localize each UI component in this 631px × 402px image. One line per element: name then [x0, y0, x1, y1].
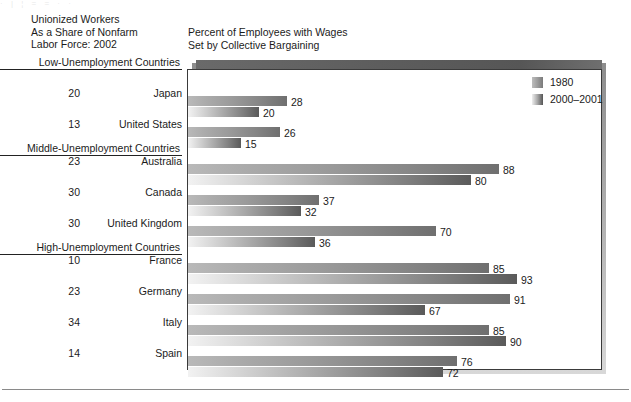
row-label-japan: 20 Japan	[0, 86, 184, 100]
chart-title-line-2: Set by Collective Bargaining	[188, 39, 348, 52]
union-share-united-kingdom: 30	[68, 216, 80, 230]
left-caption: Unionized Workers As a Share of Nonfarm …	[31, 13, 138, 51]
chart-top-band	[196, 60, 602, 69]
country-name-spain: Spain	[155, 346, 182, 360]
bar-value-germany-1980: 91	[514, 295, 526, 305]
bar-canada-1980	[188, 195, 319, 205]
scan-artifact-sliver: · | ¦ = = · ·	[0, 0, 631, 8]
bar-australia-1980	[188, 164, 499, 174]
country-name-united-states: United States	[119, 117, 182, 131]
union-share-united-states: 13	[68, 117, 80, 131]
bar-value-spain-2000: 72	[447, 368, 459, 378]
bar-germany-2000	[188, 305, 425, 315]
bar-value-canada-2000: 32	[305, 207, 317, 217]
bar-australia-2000	[188, 175, 471, 185]
row-label-united-states: 13 United States	[0, 117, 184, 131]
bar-italy-1980	[188, 325, 489, 335]
bar-value-france-1980: 85	[493, 264, 505, 274]
country-name-australia: Australia	[141, 154, 182, 168]
bar-spain-2000	[188, 367, 443, 377]
union-share-spain: 14	[68, 346, 80, 360]
bar-united-states-2000	[188, 138, 241, 148]
bar-value-australia-1980: 88	[503, 165, 515, 175]
country-name-germany: Germany	[139, 284, 182, 298]
section-header-low: Low-Unemployment Countries	[0, 56, 182, 70]
union-share-germany: 23	[68, 284, 80, 298]
row-label-united-kingdom: 30 United Kingdom	[0, 216, 184, 230]
plot-area: 1980 2000–2001 28 20 26 15 88 80 37 32 7…	[188, 70, 601, 369]
left-caption-line-1: Unionized Workers	[31, 13, 138, 26]
country-name-japan: Japan	[153, 86, 182, 100]
bar-united-kingdom-1980	[188, 226, 436, 236]
bar-value-united-states-1980: 26	[284, 128, 296, 138]
legend-swatch-1980	[532, 77, 543, 88]
bar-value-australia-2000: 80	[475, 176, 487, 186]
bar-value-japan-1980: 28	[291, 97, 303, 107]
legend-label-1980: 1980	[550, 76, 573, 88]
union-share-canada: 30	[68, 185, 80, 199]
bar-value-canada-1980: 37	[323, 196, 335, 206]
chart-title: Percent of Employees with Wages Set by C…	[188, 26, 348, 51]
bar-value-france-2000: 93	[521, 275, 533, 285]
bar-japan-1980	[188, 96, 287, 106]
country-name-canada: Canada	[145, 185, 182, 199]
bar-value-united-kingdom-2000: 36	[319, 238, 331, 248]
country-name-united-kingdom: United Kingdom	[107, 216, 182, 230]
bar-japan-2000	[188, 107, 259, 117]
bar-value-japan-2000: 20	[263, 108, 275, 118]
bar-value-germany-2000: 67	[429, 306, 441, 316]
legend-swatch-2000-2001	[532, 94, 543, 105]
row-label-australia: 23 Australia	[0, 154, 184, 168]
row-label-spain: 14 Spain	[0, 346, 184, 360]
row-label-germany: 23 Germany	[0, 284, 184, 298]
bar-spain-1980	[188, 356, 457, 366]
row-label-italy: 34 Italy	[0, 315, 184, 329]
left-caption-line-2: As a Share of Nonfarm	[31, 26, 138, 39]
bar-united-states-1980	[188, 127, 280, 137]
bar-value-united-kingdom-1980: 70	[440, 227, 452, 237]
union-share-italy: 34	[68, 315, 80, 329]
left-caption-line-3: Labor Force: 2002	[31, 38, 138, 51]
legend-label-2000-2001: 2000–2001	[550, 93, 603, 105]
bar-france-2000	[188, 274, 517, 284]
row-label-canada: 30 Canada	[0, 185, 184, 199]
union-share-france: 10	[68, 253, 80, 267]
bar-value-italy-1980: 85	[493, 326, 505, 336]
footer-divider	[2, 389, 629, 390]
union-share-australia: 23	[68, 154, 80, 168]
bar-canada-2000	[188, 206, 301, 216]
bar-united-kingdom-2000	[188, 237, 315, 247]
bar-germany-1980	[188, 294, 510, 304]
union-share-japan: 20	[68, 86, 80, 100]
country-name-italy: Italy	[163, 315, 182, 329]
bar-value-spain-1980: 76	[461, 357, 473, 367]
country-name-france: France	[149, 253, 182, 267]
bar-value-united-states-2000: 15	[245, 139, 257, 149]
row-label-france: 10 France	[0, 253, 184, 267]
bar-italy-2000	[188, 336, 506, 346]
chart-title-line-1: Percent of Employees with Wages	[188, 26, 348, 39]
bar-value-italy-2000: 90	[510, 337, 522, 347]
bar-france-1980	[188, 263, 489, 273]
